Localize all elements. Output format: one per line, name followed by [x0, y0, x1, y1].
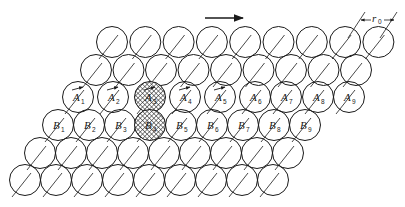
atom-label: B	[53, 119, 60, 131]
slip-line	[167, 173, 186, 197]
atom-label: B	[207, 119, 214, 131]
slip-line	[105, 173, 124, 197]
slip-line	[213, 63, 232, 87]
displacement-arrow-icon	[72, 87, 83, 90]
close-packed-diagram: A1A2A3A4A5A6A7A8A9B1B2B3B4B5B6B7B8B9 r 0	[0, 0, 405, 207]
displacement-arrow-icon	[107, 87, 118, 90]
atom-label-subscript: 5	[223, 98, 227, 105]
slip-line	[181, 63, 200, 87]
atom-label-subscript: 3	[123, 126, 127, 133]
atom-label-subscript: 4	[188, 98, 192, 105]
slip-line	[166, 35, 185, 59]
atom-label: A	[144, 91, 152, 103]
atom-label-subscript: 9	[308, 126, 312, 133]
atom-label: A	[312, 91, 320, 103]
atom-label-subscript: 6	[258, 98, 262, 105]
atom-label-subscript: 8	[277, 126, 281, 133]
atom-label: B	[145, 119, 152, 131]
atom-label-subscript: 6	[215, 126, 219, 133]
slip-line	[213, 146, 232, 170]
slip-line	[132, 35, 151, 59]
atom-label: B	[84, 119, 91, 131]
slip-line	[27, 146, 46, 170]
atom-label: A	[343, 91, 351, 103]
atom-label-subscript: 2	[92, 126, 96, 133]
atom-label: B	[269, 119, 276, 131]
slip-line	[229, 173, 248, 197]
atom-label: B	[238, 119, 245, 131]
atom-label-subscript: 5	[184, 126, 188, 133]
slip-line	[120, 146, 139, 170]
atom-label: B	[300, 119, 307, 131]
slip-line	[343, 63, 362, 87]
slip-line	[58, 146, 77, 170]
atom-label-subscript: 2	[116, 98, 120, 105]
slip-line	[332, 35, 351, 59]
slip-line	[198, 173, 217, 197]
atom-label-subscript: 7	[289, 98, 293, 105]
slip-line	[311, 63, 330, 87]
atom-label-subscript: 1	[81, 98, 85, 105]
displacement-arrow-icon	[214, 87, 225, 90]
slip-line	[12, 173, 31, 197]
slip-line	[266, 35, 285, 59]
atom-label-subscript: 4	[153, 126, 157, 133]
slip-plane-lines	[12, 35, 384, 197]
atom-label: A	[280, 91, 288, 103]
slip-line	[136, 173, 155, 197]
atom-label: B	[115, 119, 122, 131]
slip-line	[275, 146, 294, 170]
atom-label: A	[72, 91, 80, 103]
atom-label-subscript: 9	[352, 98, 356, 105]
atom-label-subscript: 8	[321, 98, 325, 105]
slip-line	[260, 173, 279, 197]
slip-line	[199, 35, 218, 59]
slip-line	[89, 146, 108, 170]
slip-line	[365, 35, 384, 59]
atom-label: A	[179, 91, 187, 103]
slip-line	[182, 146, 201, 170]
r0-dimension: r 0	[348, 12, 397, 38]
atom-label-subscript: 1	[61, 126, 65, 133]
atom-label: A	[249, 91, 257, 103]
r0-subscript: 0	[378, 18, 382, 25]
r0-label: r	[372, 12, 377, 24]
slip-line	[299, 35, 318, 59]
slip-line	[116, 63, 135, 87]
slip-line	[151, 146, 170, 170]
atom-label: A	[107, 91, 115, 103]
slip-line	[43, 173, 62, 197]
atom-label: B	[176, 119, 183, 131]
slip-line	[74, 173, 93, 197]
atom-label: A	[214, 91, 222, 103]
atom-label-subscript: 3	[153, 98, 157, 105]
slip-line	[244, 146, 263, 170]
displacement-arrow-icon	[179, 87, 190, 90]
slip-line	[232, 35, 251, 59]
atom-label-subscript: 7	[246, 126, 250, 133]
